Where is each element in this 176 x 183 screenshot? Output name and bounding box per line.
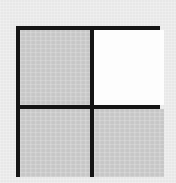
quadrant-cell-top-right[interactable]: top right quadrant, white [94,30,164,105]
figure-canvas: top left quadrant, shaded gray top right… [0,0,176,183]
quadrant-grid: top left quadrant, shaded gray top right… [16,26,160,177]
quadrant-cell-top-left[interactable]: top left quadrant, shaded gray [20,30,90,105]
quadrant-cell-bottom-left[interactable]: bottom left quadrant, shaded gray [20,109,90,177]
quadrant-cell-bottom-right[interactable]: bottom right quadrant, shaded gray [94,109,164,177]
